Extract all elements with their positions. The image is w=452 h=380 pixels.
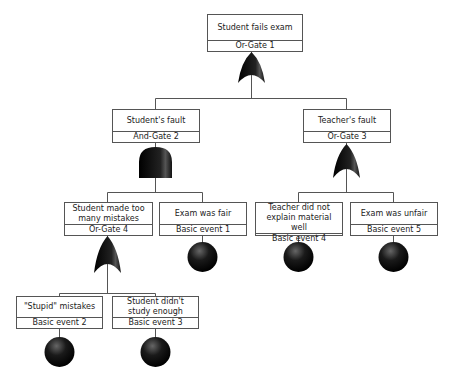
node-title: Teacher's fault (304, 110, 390, 131)
basic-event-1-icon (188, 242, 218, 272)
basic-event-5-icon (379, 242, 409, 272)
node-title: Student didn't study enough (113, 297, 198, 317)
node-teacher-did-not-explain[interactable]: Teacher did not explain material well Ba… (255, 202, 343, 236)
node-event-label: Basic event 5 (351, 224, 437, 235)
basic-event-3-icon (141, 337, 171, 367)
node-student-fails-exam[interactable]: Student fails exam Or-Gate 1 (207, 14, 303, 52)
node-exam-was-fair[interactable]: Exam was fair Basic event 1 (159, 202, 247, 236)
node-stupid-mistakes[interactable]: "Stupid" mistakes Basic event 2 (16, 296, 103, 329)
node-title: Exam was fair (160, 203, 246, 224)
node-event-label: Basic event 1 (160, 224, 246, 235)
node-students-fault[interactable]: Student's fault And-Gate 2 (112, 109, 200, 143)
node-exam-was-unfair[interactable]: Exam was unfair Basic event 5 (350, 202, 438, 236)
node-title: Teacher did not explain material well (256, 203, 342, 233)
node-title: Exam was unfair (351, 203, 437, 224)
node-title: Student's fault (113, 110, 199, 131)
node-student-didnt-study[interactable]: Student didn't study enough Basic event … (112, 296, 199, 329)
node-title: Student fails exam (208, 15, 302, 40)
node-gate-label: Or-Gate 3 (304, 131, 390, 142)
node-event-label: Basic event 2 (17, 317, 102, 328)
node-gate-label: Or-Gate 1 (208, 40, 302, 51)
node-title: "Stupid" mistakes (17, 297, 102, 317)
node-event-label: Basic event 3 (113, 317, 198, 328)
node-student-made-too-many-mistakes[interactable]: Student made too many mistakes Or-Gate 4 (64, 202, 153, 236)
basic-event-4-icon (284, 242, 314, 272)
node-event-label: Basic event 4 (256, 233, 342, 244)
basic-event-2-icon (45, 337, 75, 367)
node-gate-label: Or-Gate 4 (65, 224, 152, 235)
node-gate-label: And-Gate 2 (113, 131, 199, 142)
node-title: Student made too many mistakes (65, 203, 152, 224)
and-gate-2-icon (139, 147, 172, 178)
node-teachers-fault[interactable]: Teacher's fault Or-Gate 3 (303, 109, 391, 143)
